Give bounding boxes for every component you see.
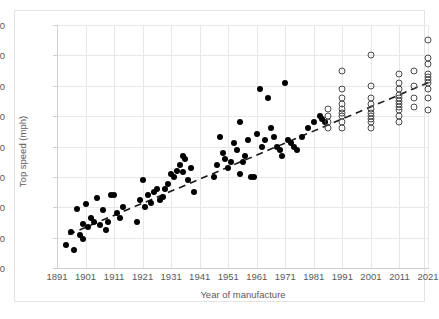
gridline-horizontal	[57, 238, 428, 239]
data-point	[100, 207, 106, 213]
data-point	[185, 177, 191, 183]
data-point	[339, 125, 346, 132]
data-point	[265, 95, 271, 101]
y-tick-mark	[53, 147, 57, 148]
x-tick-label: 1921	[132, 271, 153, 282]
data-point	[94, 195, 100, 201]
x-axis-line	[57, 268, 429, 269]
data-point	[188, 165, 194, 171]
data-point	[63, 242, 69, 248]
y-tick-label: 60	[0, 171, 5, 182]
x-tick-label: 1991	[332, 271, 353, 282]
data-point	[325, 105, 332, 112]
data-point	[160, 194, 166, 200]
data-point	[191, 189, 197, 195]
data-point	[111, 192, 117, 198]
data-point	[299, 134, 305, 140]
y-tick-mark	[53, 238, 57, 239]
data-point	[171, 174, 177, 180]
data-point	[251, 174, 257, 180]
data-point	[294, 147, 300, 153]
data-point	[339, 85, 346, 92]
data-point	[225, 165, 231, 171]
y-tick-label: 100	[0, 111, 5, 122]
data-point	[279, 153, 285, 159]
data-point	[165, 181, 171, 187]
data-point	[396, 119, 403, 126]
x-tick-label: 1941	[189, 271, 210, 282]
data-point	[242, 153, 248, 159]
y-axis-line	[57, 25, 58, 269]
data-point	[105, 219, 111, 225]
data-point	[148, 200, 154, 206]
data-point	[254, 131, 260, 137]
data-point	[339, 67, 346, 74]
y-tick-label: 120	[0, 80, 5, 91]
x-tick-label: 2001	[360, 271, 381, 282]
data-point	[425, 61, 432, 68]
y-tick-label: 160	[0, 20, 5, 31]
gridline-horizontal	[57, 207, 428, 208]
data-point	[425, 107, 432, 114]
chart-figure: Top speed (mph) Year of manufacture 1891…	[0, 0, 439, 319]
data-point	[120, 204, 126, 210]
data-point	[240, 159, 246, 165]
data-point	[177, 162, 183, 168]
y-axis-label: Top speed (mph)	[17, 92, 28, 212]
y-tick-mark	[53, 86, 57, 87]
data-point	[325, 125, 332, 132]
data-point	[142, 204, 148, 210]
data-point	[282, 80, 288, 86]
data-point	[425, 37, 432, 44]
data-point	[425, 85, 432, 92]
gridline-horizontal	[57, 25, 428, 26]
data-point	[80, 236, 86, 242]
data-point	[396, 70, 403, 77]
y-tick-mark	[53, 268, 57, 269]
data-point	[410, 82, 417, 89]
data-point	[180, 169, 186, 175]
gridline-horizontal	[57, 177, 428, 178]
data-point	[268, 125, 274, 131]
data-point	[154, 186, 160, 192]
data-point	[367, 82, 374, 89]
data-point	[137, 197, 143, 203]
x-tick-label: 2011	[389, 271, 409, 282]
data-point	[311, 119, 317, 125]
x-tick-label: 1891	[46, 271, 67, 282]
data-point	[83, 201, 89, 207]
data-point	[214, 162, 220, 168]
data-point	[85, 224, 91, 230]
y-tick-label: 140	[0, 50, 5, 61]
y-tick-label: 80	[0, 141, 5, 152]
data-point	[182, 156, 188, 162]
data-point	[262, 137, 268, 143]
data-point	[217, 134, 223, 140]
y-tick-mark	[53, 25, 57, 26]
data-point	[234, 147, 240, 153]
x-tick-label: 2021	[417, 271, 438, 282]
data-point	[228, 159, 234, 165]
x-tick-label: 1961	[246, 271, 267, 282]
y-tick-mark	[53, 55, 57, 56]
data-point	[410, 104, 417, 111]
y-tick-label: 40	[0, 202, 5, 213]
data-point	[257, 86, 263, 92]
data-point	[237, 171, 243, 177]
data-point	[271, 134, 277, 140]
data-point	[410, 67, 417, 74]
x-tick-label: 1981	[303, 271, 324, 282]
data-point	[74, 206, 80, 212]
x-tick-label: 1951	[218, 271, 239, 282]
gridline-horizontal	[57, 147, 428, 148]
y-tick-mark	[53, 207, 57, 208]
plot-area	[57, 25, 428, 268]
data-point	[68, 229, 74, 235]
data-point	[245, 137, 251, 143]
data-point	[71, 247, 77, 253]
data-point	[237, 119, 243, 125]
data-point	[367, 125, 374, 132]
data-point	[425, 94, 432, 101]
data-point	[140, 177, 146, 183]
data-point	[410, 94, 417, 101]
